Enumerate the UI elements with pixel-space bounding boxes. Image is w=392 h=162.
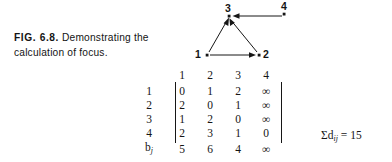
matrix-col-header-2: 2 [196,68,224,84]
matrix-cell-4-2: 3 [196,126,224,140]
matrix-row-label-2: 2 [130,98,168,112]
figure-caption-line2: calculation of focus. [14,45,192,60]
bj-value-4: ∞ [252,140,280,158]
bj-value-2: 6 [196,140,224,158]
edge-1-to-3 [209,18,229,53]
bj-row-label: bj [130,140,168,158]
sum-sigma: Σd [321,129,333,141]
graph-node-2 [258,54,261,57]
matrix-cell-1-4: ∞ [252,84,280,98]
sum-annotation: Σdij = 15 [321,129,362,143]
graph-node-label-4: 4 [281,1,287,12]
matrix-col-header-4: 4 [252,68,280,84]
figure-caption: FIG. 6.8. Demonstrating the calculation … [14,30,192,60]
edge-1-to-2 [210,52,256,57]
sum-equals-value: = 15 [338,129,362,141]
distance-matrix-block: 1 2 3 4 1 0 1 2 ∞ 2 2 0 1 ∞ 3 1 [130,68,392,162]
graph-node-label-3: 3 [225,3,231,14]
table-row: 2 2 0 1 ∞ [130,98,280,112]
matrix-col-header-3: 3 [224,68,252,84]
bj-subscript: j [151,146,153,155]
graph-node-1 [206,54,209,57]
table-row: 3 1 2 0 ∞ [130,112,280,126]
figure-number: FIG. 6.8. [14,32,59,43]
table-row: 1 0 1 2 ∞ [130,84,280,98]
matrix-cell-1-2: 1 [196,84,224,98]
bj-value-1: 5 [168,140,196,158]
directed-graph-diagram: 1 2 3 4 [186,0,304,66]
matrix-right-bracket [281,82,282,143]
matrix-row-label-4: 4 [130,126,168,140]
matrix-row-label-1: 1 [130,84,168,98]
matrix-cell-3-3: 0 [224,112,252,126]
edge-2-to-3 [229,18,257,52]
matrix-cell-2-2: 0 [196,98,224,112]
graph-node-label-2: 2 [263,49,269,60]
matrix-cell-1-3: 2 [224,84,252,98]
graph-node-label-1: 1 [195,49,201,60]
matrix-cell-1-1: 0 [168,84,196,98]
matrix-cell-2-1: 2 [168,98,196,112]
matrix-cell-4-1: 2 [168,126,196,140]
edge-4-to-3 [233,13,283,18]
bj-row: bj 5 6 4 ∞ [130,140,280,158]
matrix-column-header-row: 1 2 3 4 [130,68,280,84]
matrix-cell-4-3: 1 [224,126,252,140]
matrix-cell-3-2: 2 [196,112,224,126]
matrix-cell-3-4: ∞ [252,112,280,126]
table-row: 4 2 3 1 0 [130,126,280,140]
distance-matrix-table: 1 2 3 4 1 0 1 2 ∞ 2 2 0 1 ∞ 3 1 [130,68,280,158]
matrix-cell-2-3: 1 [224,98,252,112]
bj-value-3: 4 [224,140,252,158]
figure-caption-line1: Demonstrating the [62,32,149,43]
matrix-cell-3-1: 1 [168,112,196,126]
graph-node-3 [228,15,231,18]
matrix-cell-4-4: 0 [252,126,280,140]
graph-node-4 [283,13,286,16]
matrix-row-label-3: 3 [130,112,168,126]
matrix-cell-2-4: ∞ [252,98,280,112]
matrix-col-header-1: 1 [168,68,196,84]
matrix-corner-cell [130,68,168,84]
